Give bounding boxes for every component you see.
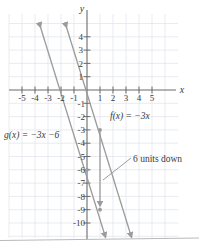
f-function-label: f(x) = −3x: [110, 111, 151, 122]
axes: [9, 10, 176, 240]
x-tick-label: -4: [31, 93, 39, 103]
x-tick-label: -2: [57, 93, 65, 103]
annotation-leader-line: [103, 158, 131, 180]
page-edge-line: [0, 238, 199, 241]
g-function-label: g(x) = −3x −6: [4, 130, 60, 141]
y-tick-label: 3: [79, 45, 84, 55]
y-tick-label: -2: [78, 112, 86, 122]
x-tick-label: 5: [150, 93, 155, 103]
x-tick-label: 3: [124, 93, 129, 103]
x-axis-label: x: [179, 84, 185, 95]
y-tick-label: -9: [78, 205, 86, 215]
x-tick-label: -3: [44, 93, 52, 103]
y-tick-label: -8: [78, 192, 86, 202]
y-tick-label: -1: [78, 99, 86, 109]
y-tick-label: -4: [78, 138, 86, 148]
y-tick-label: -10: [73, 218, 85, 228]
x-tick-label: 1: [98, 93, 103, 103]
x-tick-label: 2: [111, 93, 116, 103]
y-tick-label: -3: [78, 125, 86, 135]
y-tick-label: 1: [79, 72, 84, 82]
graph-figure: -5 -4 -3 -2 -1 1 2 3 4 5 4 3 2 1 -1 -2 -…: [0, 0, 199, 246]
y-tick-label: 4: [79, 32, 84, 42]
x-tick-label: 4: [137, 93, 142, 103]
y-axis-label: y: [79, 3, 85, 14]
y-tick-label: 2: [79, 59, 84, 69]
y-tick-label: -6: [78, 165, 86, 175]
translation-annotation-label: 6 units down: [133, 154, 182, 164]
y-tick-label: -5: [78, 152, 86, 162]
x-tick-label: -5: [18, 93, 26, 103]
y-tick-label: -7: [78, 178, 86, 188]
coordinate-plane-svg: -5 -4 -3 -2 -1 1 2 3 4 5 4 3 2 1 -1 -2 -…: [0, 0, 199, 246]
